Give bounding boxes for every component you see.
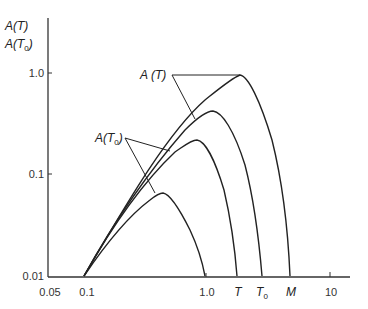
y-axis-label-top: A(T) bbox=[4, 19, 28, 33]
y-tick-label: 0.01 bbox=[23, 270, 44, 282]
y-tick-label: 1.0 bbox=[29, 67, 44, 79]
annotation-AT0-leaders bbox=[125, 138, 170, 193]
curve-1-0 bbox=[84, 193, 205, 276]
x-tick-label-T0: T0 bbox=[256, 285, 268, 301]
x-tick-label-M: M bbox=[286, 285, 296, 299]
x-tick-label: 1.0 bbox=[199, 286, 214, 298]
y-axis-label-bottom: A(T0) bbox=[4, 37, 33, 53]
curves bbox=[84, 75, 290, 276]
chart-svg: 1.0 0.1 0.01 0.05 0.1 1.0 T T0 M 10 A(T)… bbox=[0, 0, 368, 309]
x-tick-label: 10 bbox=[325, 286, 337, 298]
x-tick-label-T: T bbox=[234, 285, 243, 299]
chart: 1.0 0.1 0.01 0.05 0.1 1.0 T T0 M 10 A(T)… bbox=[0, 0, 368, 309]
annotation-AT: A (T) bbox=[139, 68, 166, 82]
y-tick-label: 0.1 bbox=[29, 168, 44, 180]
x-tick-label: 0.1 bbox=[79, 286, 94, 298]
x-tick-label: 0.05 bbox=[39, 286, 60, 298]
annotation-AT0: A(T0) bbox=[94, 131, 123, 147]
